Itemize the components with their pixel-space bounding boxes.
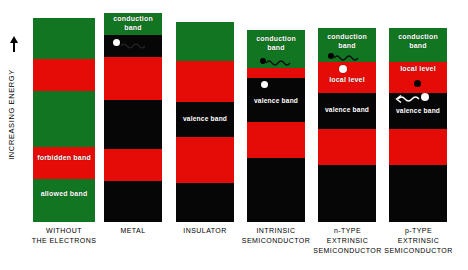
transition-squiggle-icon [266, 59, 292, 66]
band-local-level: local level [318, 62, 376, 93]
hole-dot [414, 80, 421, 87]
band-allowed [33, 18, 95, 59]
band-label: local level [389, 65, 447, 74]
electron-dot [113, 39, 120, 46]
band-local-level: local level [389, 62, 447, 93]
band-label: allowed band [33, 190, 95, 199]
band-allowed: allowed band [33, 179, 95, 222]
column-insulator: valence band [176, 22, 234, 222]
band-label: conduction band [318, 33, 376, 50]
band-conduction: conduction band [247, 30, 305, 68]
band-label: valence band [318, 106, 376, 115]
band-forbidden: forbidden band [33, 147, 95, 179]
band-forbidden [33, 59, 95, 91]
band-forbidden [247, 122, 305, 158]
band-valence: valence band [389, 93, 447, 129]
column-metal: conduction band [104, 13, 162, 222]
band-forbidden [104, 57, 162, 100]
band-forbidden [389, 129, 447, 165]
energy-axis: INCREASING ENERGY [0, 18, 22, 218]
band-filled [104, 35, 162, 57]
caption-metal: METAL [98, 226, 168, 236]
band-conduction: conduction band [104, 13, 162, 35]
band-allowed [33, 91, 95, 147]
band-allowed [176, 22, 234, 61]
band-valence: valence band [247, 78, 305, 122]
transition-squiggle-icon [121, 42, 145, 49]
band-forbidden [318, 129, 376, 165]
band-forbidden [176, 137, 234, 183]
band-label: conduction band [247, 35, 305, 52]
caption-p-type-extrinsic-semiconductor: p-TYPE EXTRINSIC SEMICONDUCTOR [376, 226, 461, 256]
electron-dot [339, 65, 347, 73]
band-forbidden [104, 149, 162, 181]
column-intrinsic-semiconductor: conduction band valence band [247, 30, 305, 222]
column-n-type-extrinsic-semiconductor: conduction band local level valence band [318, 28, 376, 222]
band-filled [104, 181, 162, 222]
band-label: valence band [389, 107, 447, 116]
band-filled [389, 165, 447, 222]
band-filled [318, 165, 376, 222]
column-p-type-extrinsic-semiconductor: conduction band local level valence band [389, 28, 447, 222]
transition-squiggle-arrow-icon [394, 94, 424, 103]
band-filled [247, 158, 305, 222]
band-filled [176, 183, 234, 222]
electron-dot [421, 93, 429, 101]
band-filled [104, 100, 162, 149]
band-label: valence band [247, 97, 305, 106]
band-label: forbidden band [33, 154, 95, 163]
column-without-the-electrons: forbidden band allowed band [33, 18, 95, 222]
electron-dot [261, 81, 268, 88]
band-conduction: conduction band [318, 28, 376, 62]
band-forbidden [176, 61, 234, 102]
band-diagram-figure: INCREASING ENERGY forbidden band allowed… [0, 0, 468, 270]
transition-squiggle-icon [334, 54, 360, 61]
band-valence: valence band [176, 102, 234, 137]
band-valence: valence band [318, 93, 376, 129]
energy-axis-label: INCREASING ENERGY [7, 30, 16, 200]
band-label: conduction band [104, 15, 162, 32]
band-label: local level [318, 76, 376, 85]
band-label: conduction band [389, 33, 447, 50]
band-forbidden [247, 68, 305, 78]
band-label: valence band [176, 115, 234, 124]
band-conduction: conduction band [389, 28, 447, 62]
